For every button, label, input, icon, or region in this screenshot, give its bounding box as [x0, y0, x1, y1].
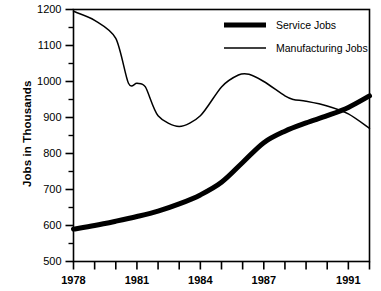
y-tick-label: 900	[24, 112, 62, 123]
y-tick-label: 700	[24, 184, 62, 195]
x-tick-label: 1987	[241, 275, 287, 286]
x-tick-label: 1984	[177, 275, 223, 286]
y-tick-label: 600	[24, 220, 62, 231]
y-tick-label: 1100	[24, 40, 62, 51]
legend-item-label: Service Jobs	[276, 20, 336, 31]
x-tick-label: 1978	[51, 275, 97, 286]
x-axis-ticks	[74, 262, 370, 270]
jobs-line-chart: Jobs in Thousands 5006007008009001000110…	[0, 0, 381, 291]
y-tick-label: 1000	[24, 76, 62, 87]
legend-item-label: Manufacturing Jobs	[276, 43, 368, 54]
y-tick-label: 800	[24, 148, 62, 159]
y-tick-label: 500	[24, 256, 62, 267]
legend-swatches	[224, 25, 266, 48]
x-tick-label: 1991	[325, 275, 371, 286]
series-line-service-jobs	[74, 96, 370, 229]
y-tick-label: 1200	[24, 4, 62, 15]
x-tick-label: 1981	[114, 275, 160, 286]
